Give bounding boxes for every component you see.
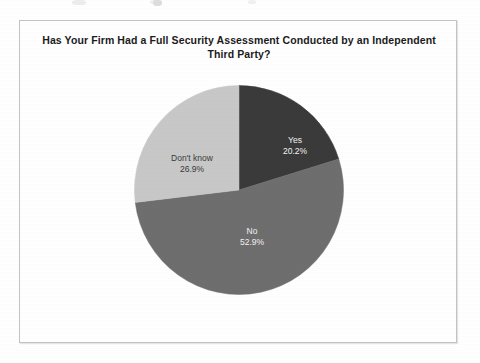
chart-title: Has Your Firm Had a Full Security Assess…	[42, 33, 436, 61]
chart-title-line-2: Third Party?	[207, 48, 270, 60]
scan-smudge	[150, 0, 160, 4]
chart-title-line-1: Has Your Firm Had a Full Security Assess…	[42, 34, 436, 46]
scan-smudge	[72, 0, 86, 5]
scan-smudge	[153, 0, 162, 6]
pie-slice-group	[134, 85, 343, 294]
scan-artifact-marks	[0, 0, 480, 14]
pie-chart: Yes 20.2% No 52.9% Don't know 26.9%	[134, 85, 344, 295]
scan-smudge	[248, 0, 256, 4]
pie-chart-svg	[134, 85, 344, 295]
chart-frame: Has Your Firm Had a Full Security Assess…	[19, 20, 457, 343]
pie-slice-don-t-know	[134, 85, 239, 202]
